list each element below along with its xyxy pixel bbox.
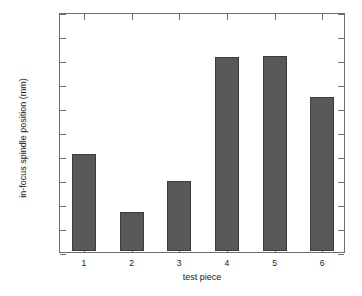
bar <box>263 56 287 251</box>
y-tick-mark-right <box>338 230 344 231</box>
bar-chart-figure: 9696.0596.196.1596.296.2596.396.3596.496… <box>0 0 362 296</box>
y-tick-mark <box>60 158 66 159</box>
x-tick-mark-top <box>179 14 180 20</box>
x-tick-label: 6 <box>320 258 325 268</box>
bar <box>310 97 334 251</box>
y-tick-mark <box>60 182 66 183</box>
x-tick-mark-top <box>227 14 228 20</box>
x-tick-label: 3 <box>177 258 182 268</box>
y-axis-title: in-focus spindle position (mm) <box>18 63 28 213</box>
y-tick-mark <box>60 206 66 207</box>
y-tick-mark <box>60 62 66 63</box>
x-tick-mark-top <box>84 14 85 20</box>
x-tick-mark-top <box>322 14 323 20</box>
y-tick-mark-right <box>338 38 344 39</box>
bar <box>120 212 144 251</box>
y-tick-mark-right <box>338 254 344 255</box>
y-tick-mark-right <box>338 158 344 159</box>
bar <box>72 154 96 251</box>
plot-area: 9696.0596.196.1596.296.2596.396.3596.496… <box>59 13 345 253</box>
x-tick-label: 5 <box>272 258 277 268</box>
y-tick-mark <box>60 38 66 39</box>
y-tick-mark-right <box>338 62 344 63</box>
y-tick-mark-right <box>338 134 344 135</box>
y-tick-mark <box>60 110 66 111</box>
y-tick-mark <box>60 86 66 87</box>
x-tick-label: 2 <box>129 258 134 268</box>
y-tick-mark <box>60 230 66 231</box>
y-tick-mark-right <box>338 110 344 111</box>
x-tick-label: 1 <box>81 258 86 268</box>
x-tick-mark-top <box>275 14 276 20</box>
y-tick-mark-right <box>338 182 344 183</box>
bar <box>215 57 239 251</box>
y-tick-mark <box>60 254 66 255</box>
y-tick-mark-right <box>338 14 344 15</box>
y-tick-mark-right <box>338 86 344 87</box>
y-tick-mark <box>60 134 66 135</box>
x-tick-label: 4 <box>224 258 229 268</box>
y-tick-mark <box>60 14 66 15</box>
bar <box>167 181 191 251</box>
x-tick-mark-top <box>132 14 133 20</box>
x-axis-title: test piece <box>59 272 345 282</box>
y-tick-mark-right <box>338 206 344 207</box>
